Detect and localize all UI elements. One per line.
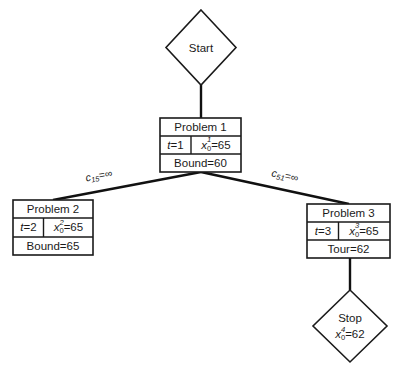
stop-diamond-shape [313,290,387,362]
problem3-t-cell: t=3 [315,225,331,237]
problem3-title: Problem 3 [322,207,374,219]
problem3-x-cell: x03=65 [348,221,378,239]
problem1-footer: Bound=60 [174,157,227,169]
start-label: Start [189,42,214,54]
problem2-x-value: =65 [64,221,84,233]
edge-label-left: c15=∞ [84,166,113,185]
problem2-footer: Bound=65 [27,240,80,252]
problem3-t-value: =3 [318,225,331,237]
problem1-t-cell: t=1 [167,139,183,151]
edge-problem1-to-problem2 [53,172,201,200]
problem1-t-value: =1 [171,139,184,151]
problem2-node: Problem 2 t=2 x02=65 Bound=65 [13,200,93,255]
flowchart-diagram: Start Problem 1 t=1 x01=65 Bound=60 Prob… [0,0,399,379]
problem1-x-cell: x01=65 [200,135,230,153]
stop-value: x04=62 [334,325,364,343]
problem3-footer: Tour=62 [328,243,370,255]
problem2-title: Problem 2 [27,203,79,215]
edge-label-right: c51=∞ [270,166,299,185]
stop-x-value: =62 [345,328,365,340]
problem1-x-value: =65 [211,139,231,151]
edge-right-rest: =∞ [284,169,300,183]
problem2-t-value: =2 [24,221,37,233]
stop-node: Stop x04=62 [313,290,387,362]
problem3-node: Problem 3 t=3 x03=65 Tour=62 [307,204,390,258]
problem2-x-cell: x02=65 [53,218,83,236]
problem1-node: Problem 1 t=1 x01=65 Bound=60 [160,118,241,172]
edge-left-rest: =∞ [98,166,114,180]
start-node: Start [166,10,236,85]
stop-label: Stop [338,312,362,324]
problem3-x-value: =65 [359,225,379,237]
problem2-t-cell: t=2 [20,221,36,233]
problem1-title: Problem 1 [174,121,226,133]
